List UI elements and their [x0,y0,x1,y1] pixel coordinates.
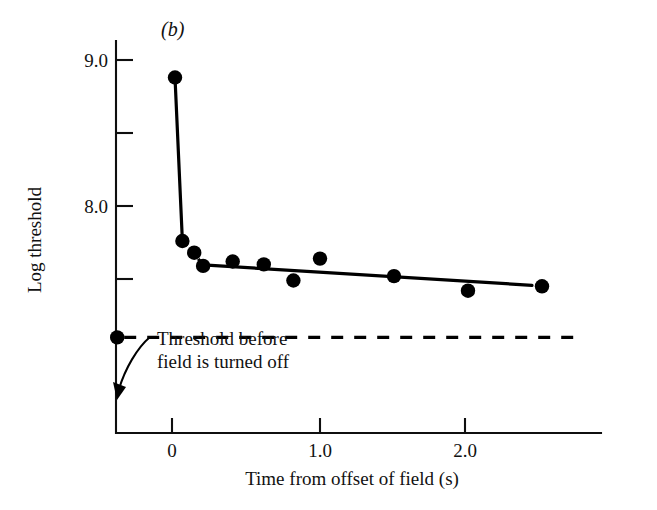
chart-canvas: 9.0 8.0 0 1.0 2.0 Time from offset of fi… [0,0,657,510]
annotation-line-1: Threshold before [157,328,287,349]
figure-panel: 9.0 8.0 0 1.0 2.0 Time from offset of fi… [0,0,657,510]
data-point [196,259,210,273]
series-line-steep-drop [175,78,182,242]
x-tick-labels: 0 1.0 2.0 [167,440,477,461]
series-markers [168,70,549,298]
data-point [313,251,327,265]
annotation-arrow-curve [119,337,150,389]
data-point [535,279,549,293]
annotation-line-2: field is turned off [157,351,290,372]
data-point [257,257,271,271]
x-tick-label-2-0: 2.0 [453,440,477,461]
panel-label: (b) [161,18,185,41]
data-point [168,70,182,84]
axes-group [116,41,601,433]
data-point [187,246,201,260]
y-tick-label-9-0: 9.0 [84,50,108,71]
axis-spines [116,41,601,433]
series-line-tail [203,265,532,285]
y-tick-label-8-0: 8.0 [84,196,108,217]
baseline-marker [110,330,124,344]
data-point [226,254,240,268]
annotation-arrow [113,337,150,400]
annotation-label: Threshold before field is turned off [157,328,290,372]
y-tick-labels: 9.0 8.0 [84,50,108,217]
data-point [461,284,475,298]
data-point [286,273,300,287]
y-axis-title: Log threshold [24,186,45,293]
baseline-data-point [110,330,124,344]
x-axis-title: Time from offset of field (s) [245,468,459,490]
x-tick-label-1-0: 1.0 [308,440,332,461]
x-tick-label-0: 0 [167,440,177,461]
data-point [175,234,189,248]
data-point [387,269,401,283]
y-axis-ticks [116,60,133,279]
x-axis-ticks [172,418,465,433]
